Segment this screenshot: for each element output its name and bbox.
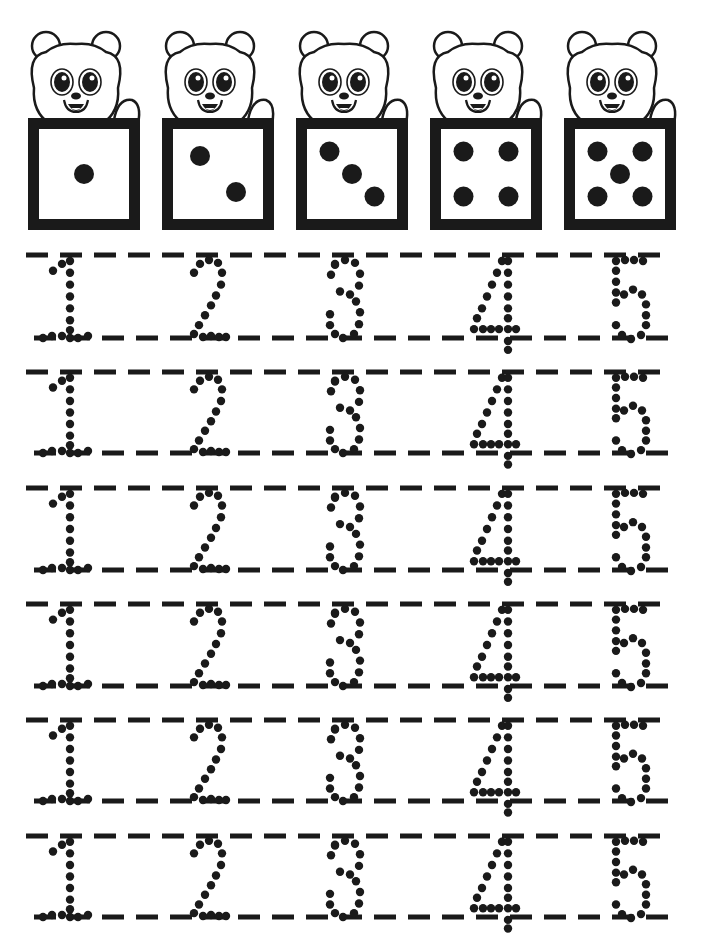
traceable-digit-2[interactable] [190, 489, 230, 574]
traceable-digit-1[interactable] [39, 606, 92, 691]
trace-dot [217, 629, 225, 637]
trace-dot [331, 330, 339, 338]
traceable-digit-2[interactable] [190, 605, 230, 690]
trace-dot [66, 566, 74, 574]
trace-dot [504, 304, 512, 312]
trace-dot [331, 376, 339, 384]
traceable-digit-2[interactable] [190, 837, 230, 921]
trace-dot [512, 788, 520, 796]
trace-dot [74, 566, 82, 574]
die-pip [454, 142, 474, 162]
traceable-digit-2[interactable] [190, 256, 230, 341]
trace-dot [621, 373, 629, 381]
traceable-digit-3[interactable] [326, 373, 364, 458]
trace-dot [470, 440, 478, 448]
trace-dot [49, 847, 57, 855]
trace-dot [639, 838, 647, 846]
trace-dot [331, 260, 339, 268]
trace-dot [638, 523, 646, 531]
trace-dot [612, 510, 620, 518]
trace-dot [612, 722, 620, 730]
traceable-digit-5[interactable] [612, 256, 650, 343]
trace-dot [504, 838, 512, 846]
trace-dot [629, 866, 637, 874]
trace-dot [196, 609, 204, 617]
traceable-digit-2[interactable] [190, 373, 230, 457]
trace-dot [66, 257, 74, 265]
trace-dot [479, 440, 487, 448]
traceable-digit-5[interactable] [612, 373, 650, 459]
trace-dot [512, 557, 520, 565]
trace-dot [58, 911, 66, 919]
trace-dot [352, 646, 360, 654]
trace-dot [504, 800, 512, 808]
trace-dot [629, 402, 637, 410]
trace-dot [58, 447, 66, 455]
die-pip [190, 146, 210, 166]
trace-dot [473, 894, 481, 902]
trace-dot [49, 383, 57, 391]
traceable-digit-3[interactable] [326, 837, 364, 922]
trace-dot [612, 742, 620, 750]
trace-dot [493, 385, 501, 393]
trace-dot [66, 895, 74, 903]
trace-dot [346, 406, 354, 414]
trace-dot [341, 605, 349, 613]
traceable-digit-3[interactable] [326, 489, 364, 575]
trace-dot [66, 653, 74, 661]
trace-dot [621, 721, 629, 729]
trace-dot [356, 424, 364, 432]
traceable-digit-3[interactable] [326, 721, 364, 806]
traceable-digit-3[interactable] [326, 605, 364, 691]
trace-dot [627, 567, 635, 575]
trace-dot [66, 525, 74, 533]
trace-dot [621, 605, 629, 613]
trace-dot [630, 837, 638, 845]
trace-dot [478, 768, 486, 776]
trace-dot [66, 884, 74, 892]
trace-dot [218, 385, 226, 393]
trace-dot [214, 259, 222, 267]
traceable-digit-5[interactable] [612, 837, 650, 923]
trace-dot [66, 789, 74, 797]
trace-dot [66, 745, 74, 753]
traceable-digit-1[interactable] [39, 374, 92, 458]
trace-dot [637, 563, 645, 571]
traceable-digit-1[interactable] [39, 838, 92, 922]
trace-dot [217, 280, 225, 288]
traceable-digit-5[interactable] [612, 605, 650, 691]
trace-dot [473, 662, 481, 670]
trace-dot [218, 269, 226, 277]
trace-dot [207, 447, 215, 455]
trace-dot [478, 420, 486, 428]
trace-dot [195, 669, 203, 677]
trace-dot [331, 562, 339, 570]
traceable-digit-2[interactable] [190, 721, 230, 805]
trace-dot [478, 884, 486, 892]
trace-dot [331, 445, 339, 453]
traceable-digit-3[interactable] [326, 256, 364, 342]
trace-dot [356, 270, 364, 278]
trace-dot [493, 501, 501, 509]
trace-dot [470, 557, 478, 565]
dice-card-3 [300, 32, 407, 225]
trace-dot [483, 525, 491, 533]
trace-dot [612, 383, 620, 391]
traceable-digit-1[interactable] [39, 490, 92, 575]
trace-dot [346, 639, 354, 647]
trace-dot [336, 287, 344, 295]
trace-dot [612, 858, 620, 866]
traceable-digit-5[interactable] [612, 721, 650, 807]
trace-dot [355, 281, 363, 289]
trace-dot [620, 406, 628, 414]
traceable-digit-5[interactable] [612, 489, 650, 575]
trace-dot [66, 664, 74, 672]
trace-dot [339, 797, 347, 805]
trace-dot [356, 734, 364, 742]
trace-dot [217, 745, 225, 753]
trace-dot [326, 436, 334, 444]
traceable-digit-1[interactable] [39, 722, 92, 806]
trace-dot [351, 376, 359, 384]
traceable-digit-1[interactable] [39, 257, 92, 342]
trace-dot [351, 608, 359, 616]
